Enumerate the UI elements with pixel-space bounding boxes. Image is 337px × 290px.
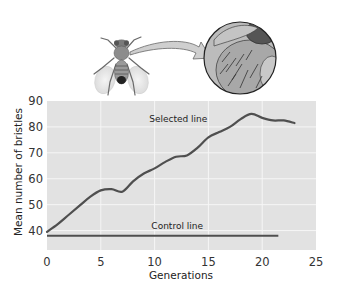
y-axis-ticks: 405060708090 <box>28 94 43 238</box>
x-axis-ticks: 0510152025 <box>43 255 323 269</box>
arrow-icon <box>130 41 211 59</box>
y-tick-label: 50 <box>28 198 43 212</box>
y-tick-label: 70 <box>28 146 43 160</box>
y-axis-title: Mean number of bristles <box>12 108 24 236</box>
bristle-selection-chart: 405060708090 0510152025 Mean number of b… <box>0 90 337 290</box>
y-tick-label: 40 <box>28 224 43 238</box>
x-tick-label: 20 <box>255 255 270 269</box>
fruit-fly-icon <box>92 37 152 96</box>
x-tick-label: 10 <box>147 255 162 269</box>
y-tick-label: 90 <box>28 94 43 108</box>
x-tick-label: 5 <box>97 255 104 269</box>
x-tick-label: 25 <box>309 255 324 269</box>
x-tick-label: 15 <box>201 255 216 269</box>
fruit-fly-illustration <box>0 0 337 100</box>
control-line-label: Control line <box>151 221 203 231</box>
x-axis-title: Generations <box>149 269 213 281</box>
x-tick-label: 0 <box>43 255 50 269</box>
selected-line-label: Selected line <box>149 114 208 124</box>
y-tick-label: 60 <box>28 172 43 186</box>
y-tick-label: 80 <box>28 120 43 134</box>
magnified-bristles-icon <box>204 20 284 100</box>
